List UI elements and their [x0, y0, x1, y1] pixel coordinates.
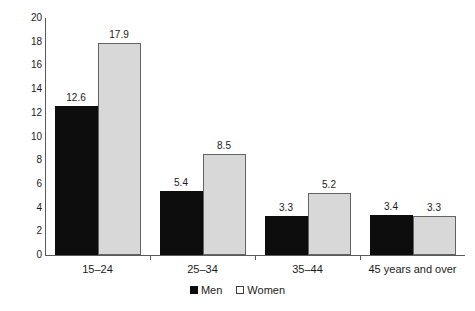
legend-item-men: Men — [190, 283, 222, 297]
legend-item-women: Women — [236, 283, 285, 297]
category-label: 45 years and over — [360, 262, 465, 276]
x-tick-mark — [150, 255, 151, 260]
bar-men — [370, 215, 413, 255]
bar-group: 3.43.3 — [0, 18, 465, 255]
bar-value-label: 3.4 — [370, 201, 413, 213]
x-tick-mark — [360, 255, 361, 260]
category-label: 15–24 — [45, 262, 150, 276]
bar-value-label: 3.3 — [413, 202, 456, 214]
bar-women — [413, 216, 456, 255]
filled-square-icon — [190, 286, 198, 294]
bar-chart: 02468101214161820 12.617.95.48.53.35.23.… — [0, 0, 475, 311]
category-label: 25–34 — [150, 262, 255, 276]
legend-label: Men — [201, 283, 222, 297]
legend-label: Women — [247, 283, 285, 297]
chart-legend: MenWomen — [0, 283, 475, 297]
x-tick-mark — [255, 255, 256, 260]
category-label: 35–44 — [255, 262, 360, 276]
open-square-icon — [236, 286, 244, 294]
